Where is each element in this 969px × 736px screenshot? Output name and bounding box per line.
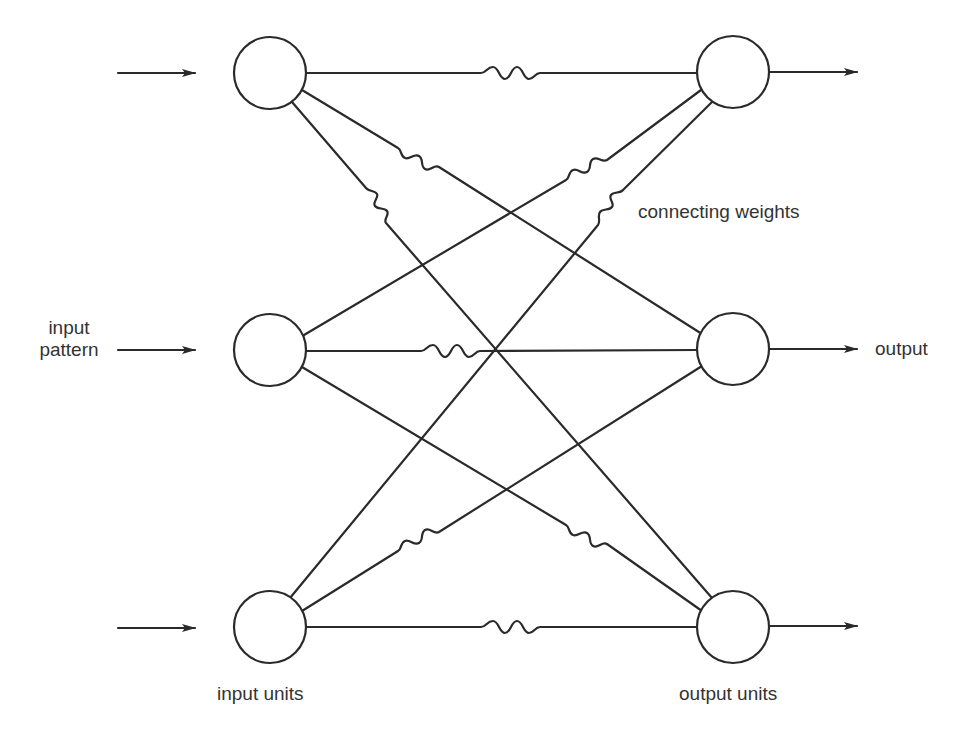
- output-label: output: [875, 338, 928, 360]
- input-pattern-label-line2: pattern: [30, 339, 108, 361]
- output-unit-1: [697, 36, 769, 108]
- input-pattern-label: input pattern: [30, 317, 108, 361]
- input-pattern-label-line1: input: [30, 317, 108, 339]
- connection-in3-out3: [306, 621, 697, 633]
- network-diagram: [0, 0, 969, 736]
- connection-in1-out1: [306, 67, 697, 79]
- input-unit-2: [234, 314, 306, 386]
- output-unit-2: [697, 313, 769, 385]
- output-unit-3: [697, 591, 769, 663]
- output-units-label: output units: [679, 683, 777, 705]
- input-units-label: input units: [217, 683, 304, 705]
- input-unit-3: [234, 591, 306, 663]
- connecting-weights-label: connecting weights: [638, 201, 800, 223]
- input-unit-1: [234, 37, 306, 109]
